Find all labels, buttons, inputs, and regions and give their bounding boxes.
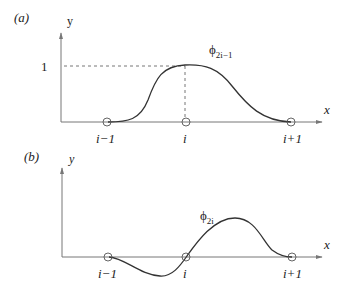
panel-b-label: (b) bbox=[24, 149, 39, 164]
panel-b-node-label-i: i bbox=[183, 266, 187, 281]
panel-a-node-i-plus-1 bbox=[287, 118, 295, 126]
diagram-canvas: (a) y x 1 i−1 i i+1 ϕ2i−1 (b) y x bbox=[0, 0, 349, 295]
panel-b-node-i-plus-1 bbox=[288, 253, 296, 261]
panel-b-node-i-minus-1 bbox=[104, 253, 112, 261]
panel-b-node-label-i-minus-1: i−1 bbox=[98, 266, 117, 281]
panel-a: (a) y x 1 i−1 i i+1 ϕ2i−1 bbox=[14, 10, 330, 146]
panel-b-node-label-i-plus-1: i+1 bbox=[283, 266, 302, 281]
panel-b-y-axis-label: y bbox=[68, 152, 75, 166]
panel-a-shape-function-curve bbox=[108, 65, 291, 122]
panel-a-node-label-i: i bbox=[183, 131, 187, 146]
panel-a-x-axis-label: x bbox=[323, 102, 330, 117]
panel-b-node-i bbox=[182, 253, 190, 261]
panel-a-node-i-minus-1 bbox=[103, 118, 111, 126]
phi-subscript: 2i−1 bbox=[216, 50, 233, 60]
panel-b: (b) y x i−1 i i+1 ϕ2i bbox=[24, 149, 330, 281]
panel-a-node-label-i-minus-1: i−1 bbox=[96, 131, 115, 146]
panel-a-y-tick-1: 1 bbox=[41, 59, 48, 74]
panel-a-function-label: ϕ2i−1 bbox=[209, 42, 232, 60]
panel-a-label: (a) bbox=[14, 10, 29, 25]
panel-b-x-axis-label: x bbox=[323, 237, 330, 252]
panel-a-node-i bbox=[182, 118, 190, 126]
phi-subscript: 2i bbox=[207, 216, 215, 226]
panel-a-node-label-i-plus-1: i+1 bbox=[283, 131, 302, 146]
panel-b-shape-function-curve bbox=[109, 218, 292, 276]
panel-a-y-axis-label: y bbox=[67, 14, 73, 28]
panel-b-function-label: ϕ2i bbox=[200, 208, 214, 226]
